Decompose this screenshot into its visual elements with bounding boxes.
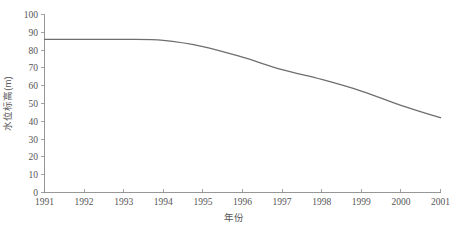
x-tick-label: 1998 bbox=[312, 197, 331, 207]
y-tick-label: 90 bbox=[29, 28, 39, 38]
x-tick-label: 2001 bbox=[431, 197, 450, 207]
water-level-series-line bbox=[45, 39, 441, 117]
x-tick-label: 2000 bbox=[391, 197, 410, 207]
y-tick-label: 20 bbox=[29, 152, 39, 162]
y-tick-label: 10 bbox=[29, 170, 39, 180]
water-level-line-chart: 0102030405060708090100 19911992199319941… bbox=[0, 0, 464, 234]
y-tick-label: 50 bbox=[29, 99, 39, 109]
x-tick-label: 1991 bbox=[35, 197, 54, 207]
y-tick-label: 70 bbox=[29, 63, 39, 73]
y-tick-label: 80 bbox=[29, 46, 39, 56]
chart-canvas: 0102030405060708090100 19911992199319941… bbox=[0, 0, 464, 234]
x-tick-label: 1999 bbox=[352, 197, 371, 207]
x-tick-label: 1993 bbox=[114, 197, 133, 207]
x-tick-label: 1994 bbox=[154, 197, 173, 207]
x-tick-label: 1997 bbox=[273, 197, 292, 207]
y-tick-label: 40 bbox=[29, 117, 39, 127]
x-tick-label: 1995 bbox=[193, 197, 212, 207]
y-tick-label: 100 bbox=[24, 10, 39, 20]
x-axis-ticks: 1991199219931994199519961997199819992000… bbox=[35, 189, 450, 207]
axis-lines bbox=[45, 15, 441, 193]
y-tick-label: 30 bbox=[29, 135, 39, 145]
x-tick-label: 1996 bbox=[233, 197, 252, 207]
x-axis-title: 年份 bbox=[224, 212, 244, 223]
y-axis-title: 水位标高(m) bbox=[2, 76, 13, 130]
y-tick-label: 60 bbox=[29, 81, 39, 91]
x-tick-label: 1992 bbox=[75, 197, 94, 207]
y-axis-ticks: 0102030405060708090100 bbox=[24, 10, 45, 198]
